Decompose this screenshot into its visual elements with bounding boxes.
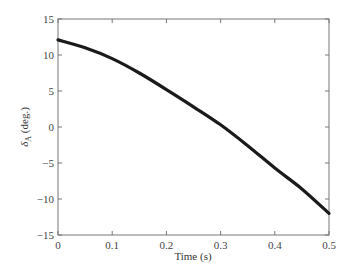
x-tick-label: 0 — [55, 239, 61, 251]
y-tick-label: −15 — [37, 229, 55, 241]
x-tick-label: 0.3 — [214, 239, 228, 251]
data-series-line — [58, 40, 329, 214]
y-tick-label: 5 — [49, 85, 55, 97]
y-tick-label: 15 — [43, 13, 55, 25]
y-tick-label: −10 — [37, 193, 55, 205]
x-axis-label: Time (s) — [174, 250, 212, 263]
x-tick-label: 0.2 — [160, 239, 174, 251]
line-chart: 151050−5−10−15 00.10.20.30.40.5 Time (s)… — [0, 0, 354, 277]
y-axis-label: δA (deg.) — [18, 107, 33, 147]
x-tick-label: 0.1 — [105, 239, 119, 251]
y-axis-label-units: (deg.) — [18, 107, 31, 136]
x-tick-label: 0.4 — [268, 239, 282, 251]
y-tick-label: 0 — [49, 121, 55, 133]
y-tick-label: 10 — [43, 49, 55, 61]
x-tick-label: 0.5 — [322, 239, 336, 251]
y-tick-label: −5 — [42, 157, 54, 169]
